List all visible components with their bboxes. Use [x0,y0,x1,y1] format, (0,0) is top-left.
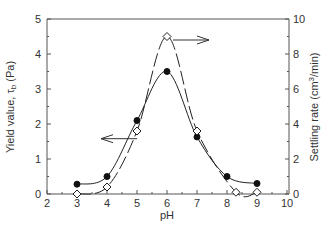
x-tick-label: 10 [281,197,293,209]
x-tick-label: 6 [164,197,170,209]
x-tick-label: 9 [254,197,260,209]
yield-value-point [164,69,170,75]
x-tick-label: 8 [224,197,230,209]
yield-value-point [254,181,260,187]
data-markers [73,33,261,199]
left-axis-arrow-icon [101,135,137,143]
y2-axis-label: Settling rate (cm3/min) [307,53,320,162]
data-curves [77,37,257,197]
x-tick-label: 7 [194,197,200,209]
y-axis-label-unit: (Pa) [4,61,16,85]
y2-tick-labels: 0246810 [293,13,305,200]
settling-rate-point [193,127,201,135]
x-tick-label: 3 [74,197,80,209]
yield-value-curve [77,71,257,184]
settling-rate-point [133,127,141,135]
x-axis-label: pH [160,209,174,221]
y2-axis-label-text: Settling rate (cm [308,81,320,161]
y2-tick-label: 4 [293,118,299,130]
chart: 2345678910 012345 0246810 pH Yield value… [0,0,329,233]
settling-rate-point [253,188,261,196]
y2-tick-label: 10 [293,13,305,25]
y-axis-label-text: Yield value, τ [4,89,16,154]
y2-axis-label-unit: /min) [308,53,320,77]
yield-value-point [134,118,140,124]
y-tick-labels: 012345 [35,13,41,200]
y-tick-label: 1 [35,153,41,165]
x-tick-label: 5 [134,197,140,209]
y-tick-label: 3 [35,83,41,95]
right-axis-arrow-icon [173,36,209,44]
y2-tick-label: 2 [293,153,299,165]
y-tick-label: 4 [35,48,41,60]
x-tick-label: 4 [104,197,110,209]
plot-axes [47,19,289,194]
tick-marks [47,19,289,194]
y2-tick-label: 0 [293,188,299,200]
settling-rate-point [163,33,171,41]
x-tick-labels: 2345678910 [44,197,293,209]
y2-tick-label: 6 [293,83,299,95]
y-axis-label: Yield value, τb (Pa) [4,61,18,153]
y-tick-label: 5 [35,13,41,25]
settling-rate-curve [77,37,257,197]
y-tick-label: 0 [35,188,41,200]
y2-tick-label: 8 [293,48,299,60]
yield-value-point [224,174,230,180]
yield-value-point [74,181,80,187]
x-tick-label: 2 [44,197,50,209]
yield-value-point [104,174,110,180]
y-tick-label: 2 [35,118,41,130]
